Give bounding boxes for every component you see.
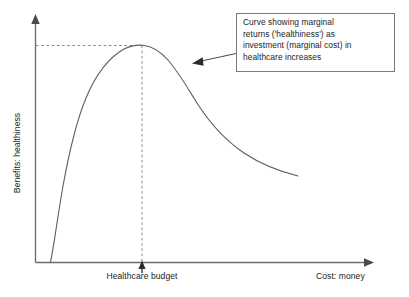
callout-leader-line [199, 54, 236, 62]
x-axis-label: Cost: money [316, 271, 396, 281]
callout-arrowhead [192, 57, 204, 66]
y-axis-label: Benefits: healthiness [12, 93, 22, 213]
curve-callout-box: Curve showing marginal returns ('healthi… [236, 13, 395, 72]
marginal-returns-curve [51, 45, 299, 262]
y-axis-arrowhead [31, 14, 39, 24]
x-axis-arrowhead [364, 258, 374, 266]
chart-figure: Curve showing marginal returns ('healthi… [0, 0, 409, 297]
callout-line-4: healthcare increases [243, 52, 390, 64]
healthcare-budget-tick-arrowhead [138, 261, 145, 270]
callout-line-1: Curve showing marginal [243, 17, 390, 29]
callout-line-3: investment (marginal cost) in [243, 40, 390, 52]
healthcare-budget-label: Healthcare budget [92, 271, 192, 281]
callout-line-2: returns ('healthiness') as [243, 29, 390, 41]
